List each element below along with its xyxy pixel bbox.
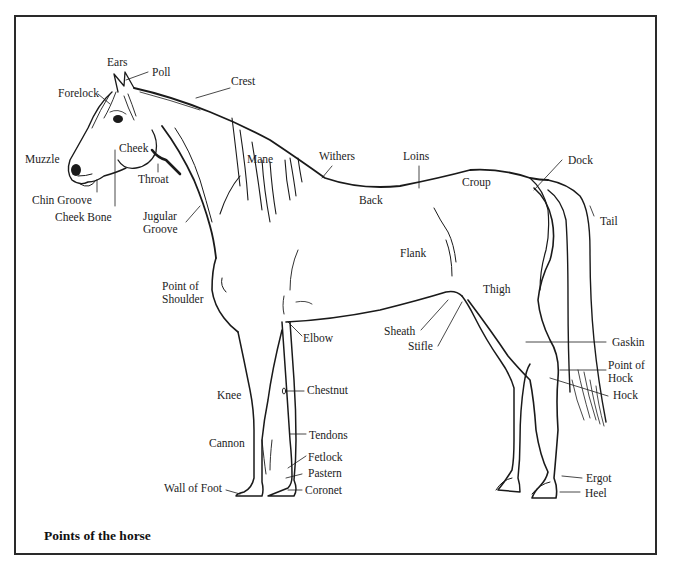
label-dock: Dock (568, 154, 593, 167)
throat-shadow (152, 150, 180, 174)
label-heel: Heel (585, 487, 607, 500)
label-cannon: Cannon (209, 437, 245, 450)
ears-outline (114, 72, 134, 92)
label-gaskin: Gaskin (612, 336, 645, 349)
neck-underline (162, 126, 216, 258)
flank-crease (434, 208, 456, 276)
mane-hair (232, 118, 302, 222)
label-jugular-groove: Jugular Groove (143, 210, 178, 236)
label-withers: Withers (319, 150, 355, 163)
label-elbow: Elbow (303, 332, 333, 345)
chest-outline (212, 258, 238, 332)
nostril (71, 164, 81, 176)
label-mane: Mane (247, 153, 273, 166)
label-ears: Ears (107, 56, 127, 69)
label-point-of-hock: Point of Hock (608, 359, 645, 385)
label-flank: Flank (400, 247, 426, 260)
label-cheek: Cheek (119, 142, 148, 155)
label-muzzle: Muzzle (25, 153, 59, 166)
hind-leg-near (462, 296, 530, 492)
label-point-of-shoulder: Point of Shoulder (162, 280, 204, 306)
belly-line (286, 292, 462, 323)
label-hock: Hock (613, 389, 638, 402)
label-thigh: Thigh (483, 283, 510, 296)
hindquarter-outline (530, 178, 549, 290)
label-loins: Loins (403, 150, 429, 163)
label-crest: Crest (231, 75, 255, 88)
label-cheek-bone: Cheek Bone (55, 211, 112, 224)
diagram-caption: Points of the horse (44, 528, 151, 544)
hind-hooves (496, 478, 550, 494)
label-stifle: Stifle (408, 340, 433, 353)
label-ergot: Ergot (586, 472, 611, 485)
label-chin-groove: Chin Groove (32, 194, 92, 207)
label-knee: Knee (217, 389, 241, 402)
front-leg-near (236, 330, 282, 496)
mouth-outline (78, 174, 96, 186)
label-back: Back (359, 194, 383, 207)
eye (113, 115, 123, 123)
crest-line (134, 88, 548, 187)
label-coronet: Coronet (305, 484, 342, 497)
label-tail: Tail (600, 215, 618, 228)
label-wall-of-foot: Wall of Foot (164, 482, 222, 495)
label-fetlock: Fetlock (308, 451, 343, 464)
label-chestnut: Chestnut (307, 384, 348, 397)
chestnut-mark (282, 388, 285, 394)
label-pastern: Pastern (308, 467, 342, 480)
label-croup: Croup (462, 176, 491, 189)
label-poll: Poll (152, 66, 171, 79)
label-throat: Throat (138, 173, 169, 186)
front-leg-far (268, 322, 296, 496)
label-tendons: Tendons (309, 429, 348, 442)
label-forelock: Forelock (58, 87, 99, 100)
label-sheath: Sheath (384, 325, 415, 338)
